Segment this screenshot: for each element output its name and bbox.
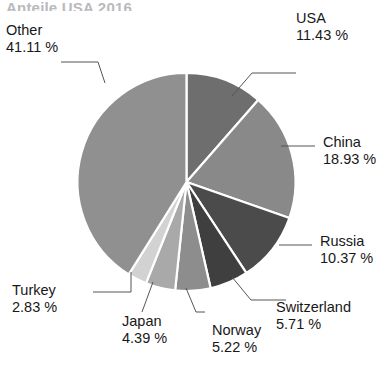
- callout-norway-value: 5.22 %: [212, 339, 261, 356]
- callout-japan: Japan 4.39 %: [122, 313, 167, 347]
- callout-switzerland: Switzerland 5.71 %: [276, 299, 351, 333]
- callout-other-value: 41.11 %: [6, 39, 58, 56]
- callout-usa-label: USA: [296, 10, 348, 27]
- callout-other: Other 41.11 %: [6, 22, 58, 56]
- callout-turkey-label: Turkey: [12, 282, 57, 299]
- callout-japan-value: 4.39 %: [122, 330, 167, 347]
- callout-russia-label: Russia: [320, 233, 373, 250]
- leader-line-switzerland: [232, 277, 286, 300]
- pie-slice-group: [78, 73, 296, 291]
- callout-norway-label: Norway: [212, 322, 261, 339]
- callout-switzerland-label: Switzerland: [276, 299, 351, 316]
- callout-other-label: Other: [6, 22, 58, 39]
- callout-usa-value: 11.43 %: [296, 27, 348, 44]
- callout-china-label: China: [323, 134, 376, 151]
- callout-russia-value: 10.37 %: [320, 250, 373, 267]
- callout-usa: USA 11.43 %: [296, 10, 348, 44]
- leader-line-turkey: [93, 272, 131, 292]
- callout-switzerland-value: 5.71 %: [276, 316, 351, 333]
- callout-china: China 18.93 %: [323, 134, 376, 168]
- pie-chart-figure: Anteile USA 2016 Other 41.11 % USA 11.4: [0, 0, 388, 378]
- callout-turkey: Turkey 2.83 %: [12, 282, 57, 316]
- callout-norway: Norway 5.22 %: [212, 322, 261, 356]
- callout-russia: Russia 10.37 %: [320, 233, 373, 267]
- callout-turkey-value: 2.83 %: [12, 299, 57, 316]
- leader-line-japan: [142, 282, 153, 312]
- callout-china-value: 18.93 %: [323, 151, 376, 168]
- leader-line-other: [61, 62, 105, 83]
- callout-japan-label: Japan: [122, 313, 167, 330]
